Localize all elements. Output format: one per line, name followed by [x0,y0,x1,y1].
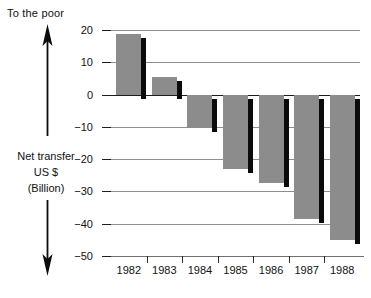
bar-1983[interactable] [152,30,177,256]
bar-1988[interactable] [330,30,355,256]
bar-fill-1985 [223,95,248,169]
y-tick-label--30: −30 [74,186,93,197]
x-tick-1983 [147,256,148,263]
x-axis-label-1988: 1988 [330,264,354,276]
x-tick-1985 [218,256,219,263]
bar-shadow-1984 [212,99,217,133]
bar-1987[interactable] [294,30,319,256]
y-tick-mark-0 [102,95,111,96]
y-tick-mark--40 [102,224,111,225]
y-tick-mark-10 [102,62,111,63]
bar-series [111,30,360,256]
y-axis-title-line-2: US $ [0,164,92,180]
plot-area: 20100−10−20−30−40−50 [96,30,368,256]
y-tick-mark-20 [102,30,111,31]
bar-fill-1982 [116,34,141,94]
down-arrow-icon [41,200,54,276]
up-arrow-icon [41,24,54,136]
x-axis-label-1986: 1986 [259,264,283,276]
bar-1984[interactable] [187,30,212,256]
y-tick-mark--30 [102,191,111,192]
bar-fill-1984 [187,95,212,129]
y-tick-label--40: −40 [74,218,93,229]
bar-fill-1987 [294,95,319,219]
bar-1982[interactable] [116,30,141,256]
x-tick-1987 [289,256,290,263]
bar-shadow-1982 [141,38,146,98]
x-axis-label-1985: 1985 [223,264,247,276]
bar-fill-1986 [259,95,284,184]
x-axis-label-1982: 1982 [117,264,141,276]
y-tick-label-0: 0 [87,89,93,100]
x-axis-label-1984: 1984 [188,264,212,276]
y-tick-mark--20 [102,159,111,160]
bar-fill-1983 [152,77,177,95]
x-tick-1988 [324,256,325,263]
y-tick-label--10: −10 [74,121,93,132]
y-tick-mark--10 [102,127,111,128]
bar-shadow-1987 [319,99,324,223]
x-axis-line [111,256,364,257]
y-tick-mark--50 [102,256,111,257]
bar-shadow-1988 [355,99,360,244]
bar-fill-1988 [330,95,355,240]
x-tick-1984 [182,256,183,263]
bar-shadow-1985 [248,99,253,173]
to-the-poor-label: To the poor [7,8,64,19]
bar-1985[interactable] [223,30,248,256]
y-tick-label-10: 10 [81,57,93,68]
x-axis-label-1987: 1987 [294,264,318,276]
y-tick-label--20: −20 [74,154,93,165]
bar-shadow-1986 [284,99,289,188]
bar-1986[interactable] [259,30,284,256]
x-axis-label-1983: 1983 [152,264,176,276]
y-tick-label-20: 20 [81,25,93,36]
bar-shadow-1983 [177,81,182,99]
chart-canvas: To the poor Net transfer US $ (Billion) … [0,0,371,298]
x-tick-1986 [253,256,254,263]
y-tick-label--50: −50 [74,251,93,262]
